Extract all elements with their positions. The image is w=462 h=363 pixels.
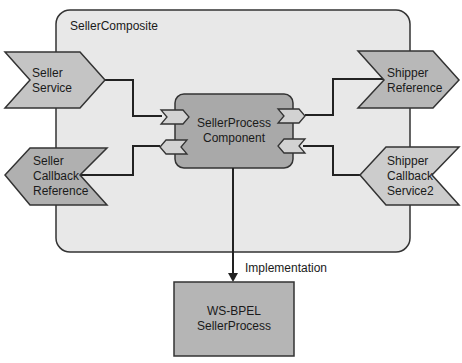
composite-title: SellerComposite	[70, 19, 158, 34]
shipper-reference-label: Shipper Reference	[387, 66, 442, 96]
ws-bpel-label: WS-BPEL SellerProcess	[174, 304, 294, 334]
component-label: SellerProcess Component	[175, 116, 293, 146]
seller-service-label: Seller Service	[32, 66, 72, 96]
shipper-callback-service2-label: Shipper Callback Service2	[387, 154, 434, 199]
seller-callback-reference-label: Seller Callback Reference	[33, 154, 88, 199]
implementation-edge-label: Implementation	[245, 261, 327, 276]
implementation-arrowhead-icon	[228, 273, 238, 282]
